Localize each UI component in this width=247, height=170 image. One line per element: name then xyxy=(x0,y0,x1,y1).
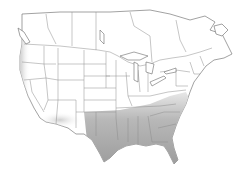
lake-michigan xyxy=(134,62,138,82)
pacific-coast-range xyxy=(14,40,30,130)
north-america-map-svg xyxy=(0,0,247,170)
range-map xyxy=(0,0,247,170)
newfoundland xyxy=(214,24,228,36)
